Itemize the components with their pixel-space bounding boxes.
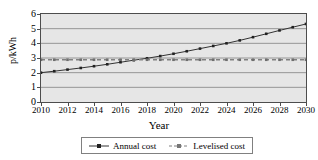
x-tick-mark (200, 102, 201, 106)
legend-label-levelised-cost: Levelised cost (193, 141, 245, 151)
y-tick-label: 1 (14, 82, 36, 92)
y-tick-mark (37, 87, 40, 88)
y-tick-label: 2 (14, 68, 36, 78)
y-tick-label: 6 (14, 9, 36, 19)
y-tick-label: 4 (14, 38, 36, 48)
y-tick-mark (37, 58, 40, 59)
legend-key-levelised-cost (169, 142, 189, 150)
x-tick-mark (121, 102, 122, 106)
x-tick-mark (147, 102, 148, 106)
y-tick-mark (37, 43, 40, 44)
x-axis-title: Year (0, 119, 318, 131)
chart-figure: p/kWh 0123456 20102012201420162018202020… (0, 0, 318, 160)
y-tick-label: 5 (14, 24, 36, 34)
x-tick-label: 2030 (289, 106, 318, 115)
x-tick-mark (94, 102, 95, 106)
chart-legend: Annual cost Levelised cost (81, 137, 253, 154)
legend-key-annual-cost (89, 142, 109, 150)
x-tick-mark (280, 102, 281, 106)
y-tick-mark (37, 29, 40, 30)
plot-area (40, 13, 307, 103)
y-tick-mark (37, 102, 40, 103)
legend-item-annual-cost[interactable]: Annual cost (89, 141, 156, 151)
plot-canvas (41, 14, 306, 102)
legend-item-levelised-cost[interactable]: Levelised cost (169, 141, 245, 151)
x-tick-mark (174, 102, 175, 106)
x-tick-mark (306, 102, 307, 106)
y-tick-label: 3 (14, 53, 36, 63)
x-tick-mark (41, 102, 42, 106)
x-tick-mark (68, 102, 69, 106)
y-tick-mark (37, 14, 40, 15)
legend-label-annual-cost: Annual cost (113, 141, 156, 151)
x-tick-mark (227, 102, 228, 106)
y-tick-mark (37, 73, 40, 74)
x-tick-mark (253, 102, 254, 106)
